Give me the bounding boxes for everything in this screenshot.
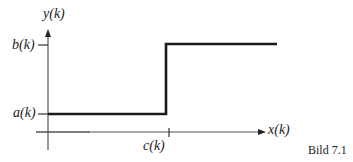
step-diagram bbox=[0, 0, 353, 162]
x-axis-arrow-icon bbox=[258, 129, 266, 135]
y-axis-arrow-icon bbox=[45, 29, 51, 37]
c-step-label: c(k) bbox=[143, 139, 165, 153]
b-level-label: b(k) bbox=[12, 38, 35, 52]
a-level-label: a(k) bbox=[13, 106, 36, 120]
y-axis-label: y(k) bbox=[43, 7, 65, 21]
figure-caption: Bild 7.1 bbox=[308, 144, 347, 156]
x-axis-label: x(k) bbox=[268, 123, 290, 137]
step-function-curve bbox=[48, 44, 277, 114]
